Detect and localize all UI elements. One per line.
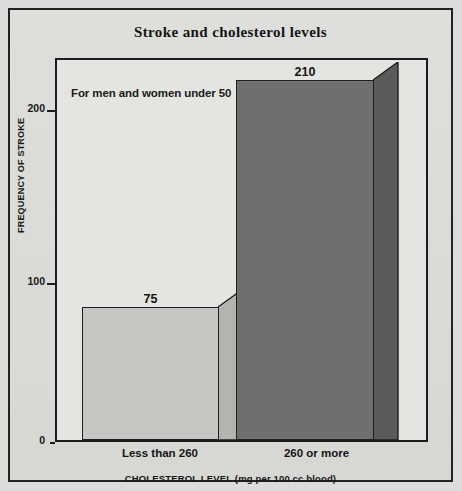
y-tick-label-100: 100: [27, 275, 45, 287]
y-axis: FREQUENCY OF STROKE 200 100 0: [10, 58, 55, 444]
bar-group-260-or-more[interactable]: [236, 80, 401, 440]
y-tick-200: 200: [10, 110, 55, 111]
x-category-label-260-or-more: 260 or more: [234, 447, 399, 459]
y-tick-100: 100: [10, 283, 55, 284]
x-axis-title: CHOLESTEROL LEVEL (mg per 100 cc blood): [10, 473, 451, 484]
plot-inner: For men and women under 50 75 210: [57, 60, 426, 440]
chart-annotation: For men and women under 50: [71, 87, 231, 99]
y-axis-title: FREQUENCY OF STROKE: [16, 118, 26, 233]
chart-title: Stroke and cholesterol levels: [10, 24, 451, 41]
y-tick-mark-0: [50, 442, 55, 444]
bar-value-label-210: 210: [236, 65, 374, 79]
x-category-label-less-than-260: Less than 260: [80, 447, 240, 459]
bar-face-260-or-more[interactable]: [236, 80, 374, 440]
bar-group-less-than-260[interactable]: [82, 307, 242, 440]
bar-side-panel-2: [373, 62, 399, 440]
bar-face-less-than-260[interactable]: [82, 307, 219, 440]
y-tick-label-200: 200: [27, 102, 45, 114]
y-tick-mark-200: [47, 110, 55, 112]
y-tick-label-0: 0: [39, 434, 45, 446]
y-tick-0: 0: [10, 442, 55, 443]
y-tick-mark-100: [47, 283, 55, 285]
bar-value-label-75: 75: [82, 292, 219, 306]
chart-outer-frame: Stroke and cholesterol levels FREQUENCY …: [8, 8, 453, 482]
plot-area: For men and women under 50 75 210: [55, 58, 428, 442]
